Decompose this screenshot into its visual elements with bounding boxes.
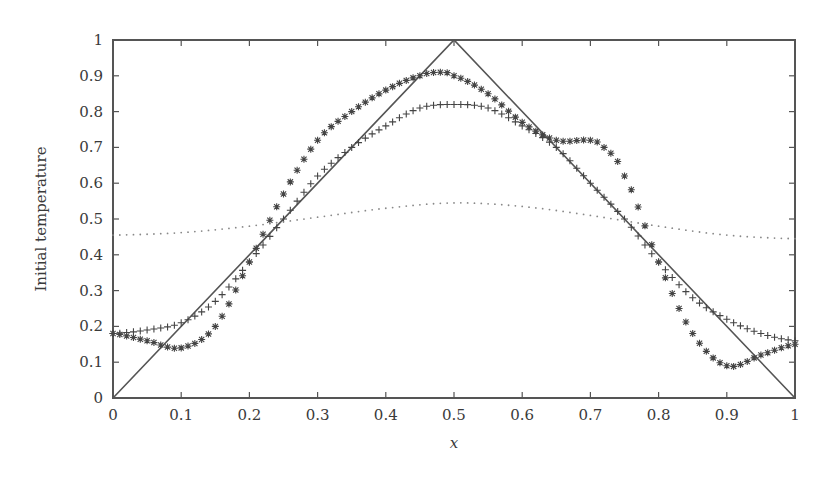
- x-tick-label: 1: [790, 406, 800, 424]
- y-tick-label: 0.5: [79, 210, 103, 228]
- plot-area: [113, 40, 795, 398]
- series-star-markers: [110, 69, 799, 370]
- series-layer: [110, 40, 799, 398]
- y-tick-label: 0.6: [79, 174, 103, 192]
- x-tick-label: 0.9: [715, 406, 739, 424]
- y-tick-label: 0.9: [79, 67, 103, 85]
- x-axis: 00.10.20.30.40.50.60.70.80.91: [108, 40, 800, 424]
- x-tick-label: 0: [108, 406, 118, 424]
- x-tick-label: 0.2: [237, 406, 261, 424]
- series-solid-line: [113, 40, 795, 398]
- y-tick-label: 0.4: [79, 246, 103, 264]
- y-tick-label: 0: [93, 389, 103, 407]
- y-axis-label: Initial temperature: [32, 146, 50, 291]
- x-tick-label: 0.7: [578, 406, 602, 424]
- y-tick-label: 0.7: [79, 138, 103, 156]
- plot-border: [113, 40, 795, 398]
- y-tick-label: 1: [93, 31, 103, 49]
- y-tick-label: 0.2: [79, 317, 103, 335]
- x-tick-label: 0.6: [510, 406, 534, 424]
- x-tick-label: 0.8: [647, 406, 671, 424]
- x-axis-label: x: [450, 434, 459, 452]
- x-tick-label: 0.5: [442, 406, 466, 424]
- series-dotted-line: [112, 202, 796, 240]
- y-axis: 00.10.20.30.40.50.60.70.80.91: [79, 31, 795, 407]
- x-tick-label: 0.4: [374, 406, 398, 424]
- y-tick-label: 0.1: [79, 353, 103, 371]
- y-tick-label: 0.8: [79, 103, 103, 121]
- chart: 00.10.20.30.40.50.60.70.80.91 00.10.20.3…: [0, 0, 821, 482]
- x-tick-label: 0.3: [306, 406, 330, 424]
- x-tick-label: 0.1: [169, 406, 193, 424]
- y-tick-label: 0.3: [79, 282, 103, 300]
- series-plus-markers: [110, 101, 799, 344]
